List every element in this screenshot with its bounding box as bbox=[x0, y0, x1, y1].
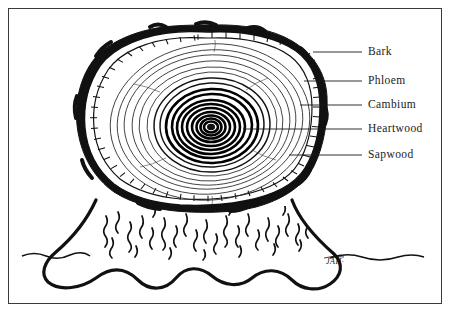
label-phloem: Phloem bbox=[368, 74, 406, 86]
label-cambium: Cambium bbox=[368, 98, 416, 110]
label-sapwood: Sapwood bbox=[368, 148, 414, 160]
svg-text:JAH·: JAH· bbox=[326, 257, 344, 266]
label-heartwood: Heartwood bbox=[368, 122, 423, 134]
artist-signature: JAH· bbox=[324, 256, 344, 266]
label-bark: Bark bbox=[368, 45, 392, 57]
trunk-body bbox=[44, 200, 341, 289]
illustration-page: JAH· Bark Phloem Cambium Heartwood Sapwo… bbox=[0, 0, 452, 314]
